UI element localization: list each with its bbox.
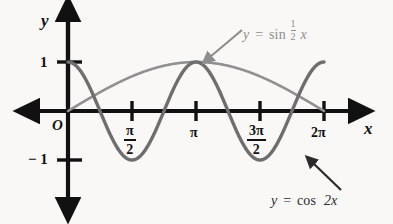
fraction-numerator: 1 <box>291 19 296 29</box>
y-tick-label-minus-1: − 1 <box>28 152 48 167</box>
fraction-denominator: 2 <box>291 32 296 42</box>
fraction-denominator: 2 <box>124 142 136 157</box>
y-axis-label: y <box>41 12 49 29</box>
trig-graph-figure: y x O 1 − 1 π 2 π 3π 2 2π y = sin 1 2 x … <box>0 0 393 224</box>
sin-label-equals: = <box>253 27 265 42</box>
sin-label-variable: x <box>301 27 307 42</box>
cos-curve-label: y = cos 2x <box>271 194 338 208</box>
origin-label: O <box>52 118 63 133</box>
cos-label-arrow <box>313 163 341 190</box>
cos-label-lhs: y <box>271 193 277 208</box>
sin-label-function: sin <box>269 27 286 42</box>
x-tick-label-2pi: 2π <box>311 126 326 140</box>
fraction-bar <box>247 139 266 141</box>
x-tick-label-3pi-over-2: 3π 2 <box>247 124 266 158</box>
fraction-3pi-over-2: 3π 2 <box>247 124 266 158</box>
fraction-pi-over-2: π 2 <box>124 124 136 158</box>
fraction-numerator: 3π <box>247 124 266 139</box>
fraction-denominator: 2 <box>247 142 266 157</box>
x-axis-label: x <box>364 120 373 137</box>
sin-curve-label: y = sin 1 2 x <box>243 19 307 42</box>
cos-label-coefficient: 2 <box>320 193 331 208</box>
fraction-numerator: π <box>124 124 136 139</box>
cos-label-equals: = <box>281 193 293 208</box>
cos-label-function: cos <box>297 193 316 208</box>
fraction-bar <box>124 139 136 141</box>
sin-label-lhs: y <box>243 27 249 42</box>
x-tick-label-pi-over-2: π 2 <box>124 124 136 158</box>
coordinate-plot <box>0 0 393 224</box>
sin-label-arrow <box>210 30 242 57</box>
cos-label-variable: x <box>331 193 337 208</box>
sin-label-coefficient-fraction: 1 2 <box>291 19 296 42</box>
x-tick-label-pi: π <box>190 126 198 140</box>
y-tick-label-1: 1 <box>40 55 48 70</box>
axes-group <box>36 18 358 201</box>
